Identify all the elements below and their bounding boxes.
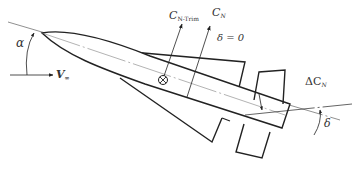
- lower-tail-fin: [236, 124, 270, 158]
- delta-zero-label: δ = 0: [217, 33, 244, 43]
- delta-label: δ: [324, 118, 331, 129]
- alpha-label: α: [16, 37, 24, 49]
- freestream-velocity-label: V∞: [56, 69, 70, 81]
- delta-cn-label: ΔCN: [305, 76, 327, 88]
- center-of-gravity-icon: [159, 76, 168, 85]
- cn-label: CN: [212, 7, 226, 19]
- alpha-angle-arc: [26, 33, 34, 75]
- body-axis-inner: [42, 33, 285, 115]
- wing-trailing-edge: [222, 118, 230, 121]
- missile-diagram: [0, 0, 357, 170]
- cn-trim-label: CN-Trim: [169, 10, 199, 22]
